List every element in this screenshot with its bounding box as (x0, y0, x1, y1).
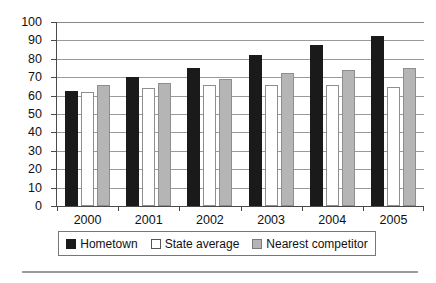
legend-item-hometown[interactable]: Hometown (66, 238, 137, 250)
x-axis-tick (363, 206, 364, 211)
x-axis-label-2000: 2000 (57, 214, 118, 227)
bar-groups: 200020012002200320042005 (57, 22, 424, 206)
legend-item-state-average[interactable]: State average (151, 238, 240, 250)
bar-2002-nearest-competitor (219, 79, 232, 206)
bottom-divider (22, 271, 418, 273)
y-axis-tick-label: 30 (28, 145, 42, 158)
legend-swatch-icon (66, 239, 76, 249)
legend-label: State average (165, 238, 240, 250)
x-axis-tick (423, 206, 424, 211)
bar-2001-hometown (126, 77, 139, 206)
x-axis-label-2005: 2005 (363, 214, 424, 227)
bar-2002-state-average (203, 85, 216, 206)
bar-group-2003: 2003 (241, 22, 302, 206)
y-axis-tick-label: 20 (28, 163, 42, 176)
legend-label: Nearest competitor (266, 238, 367, 250)
y-axis-tick-label: 10 (28, 181, 42, 194)
bar-group-2005: 2005 (363, 22, 424, 206)
legend-item-nearest-competitor[interactable]: Nearest competitor (252, 238, 367, 250)
bar-2004-nearest-competitor (342, 70, 355, 206)
chart-legend: HometownState averageNearest competitor (58, 231, 376, 256)
bar-chart-figure: 0102030405060708090100 20002001200220032… (0, 0, 436, 283)
bar-2005-hometown (371, 36, 384, 206)
y-axis-tick-label: 50 (28, 108, 42, 121)
bar-2003-state-average (265, 85, 278, 206)
bar-2002-hometown (187, 68, 200, 206)
x-axis-tick (118, 206, 119, 211)
bar-2000-hometown (65, 91, 78, 206)
y-axis-tick-label: 80 (28, 53, 42, 66)
legend-label: Hometown (80, 238, 137, 250)
bar-2005-nearest-competitor (403, 68, 416, 206)
bar-2005-state-average (387, 87, 400, 206)
legend-swatch-icon (252, 239, 262, 249)
x-axis-label-2004: 2004 (302, 214, 363, 227)
plot-area: 0102030405060708090100 20002001200220032… (56, 22, 424, 207)
y-axis-tick-label: 70 (28, 71, 42, 84)
bar-2004-hometown (310, 45, 323, 206)
x-axis-label-2002: 2002 (179, 214, 240, 227)
x-axis-tick (179, 206, 180, 211)
y-axis-tick-label: 0 (35, 200, 42, 213)
y-axis-tick-label: 90 (28, 34, 42, 47)
bar-2000-state-average (81, 92, 94, 206)
x-axis-label-2001: 2001 (118, 214, 179, 227)
x-axis-tick (241, 206, 242, 211)
bar-group-2000: 2000 (57, 22, 118, 206)
legend-swatch-icon (151, 239, 161, 249)
bar-2001-nearest-competitor (158, 83, 171, 206)
y-axis-tick-label: 40 (28, 126, 42, 139)
bar-group-2002: 2002 (179, 22, 240, 206)
x-axis-tick (302, 206, 303, 211)
bar-group-2004: 2004 (302, 22, 363, 206)
bar-2000-nearest-competitor (97, 85, 110, 206)
bar-group-2001: 2001 (118, 22, 179, 206)
bar-2003-hometown (249, 55, 262, 206)
bar-2001-state-average (142, 88, 155, 206)
y-axis-tick-label: 60 (28, 89, 42, 102)
x-axis-label-2003: 2003 (241, 214, 302, 227)
bar-2004-state-average (326, 85, 339, 206)
bar-2003-nearest-competitor (281, 73, 294, 206)
x-axis-tick (57, 206, 58, 211)
y-axis-tick-label: 100 (21, 16, 42, 29)
